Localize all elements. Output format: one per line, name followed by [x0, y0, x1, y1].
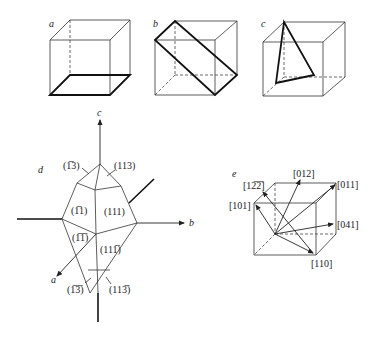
panel-d-label: d — [38, 164, 44, 175]
face-11-bar1: (111̅) — [100, 244, 121, 256]
panel-e-cube: e [12̅2̅] [012] [011] [101] [041] [110] — [229, 168, 359, 269]
panel-e-label: e — [232, 168, 237, 179]
direction-101: [101] — [229, 200, 251, 211]
axis-b-label: b — [189, 217, 194, 228]
panel-d-crystal: d c b a (1̅3) (113) (1̅1) (111) (1̅1̅) (… — [17, 107, 194, 322]
panel-b-label: b — [153, 18, 158, 29]
direction-012: [012] — [293, 168, 315, 179]
face-1-bar1-3: (1̅3) — [63, 160, 80, 172]
axis-a-label: a — [51, 274, 56, 285]
panel-a-label: a — [49, 18, 54, 29]
panel-a-cube: a — [49, 18, 130, 95]
face-1-bar1-bar1: (1̅1̅) — [72, 232, 88, 244]
face-111: (111) — [104, 206, 125, 218]
direction-1-bar2-bar2: [12̅2̅] — [243, 180, 265, 191]
crystallography-figure: a b c d c b a — [0, 0, 373, 337]
direction-110: [110] — [311, 258, 332, 269]
face-11-bar3: (113̅) — [109, 284, 130, 296]
face-1-bar1-1: (1̅1) — [71, 205, 87, 217]
panel-b-cube: b — [153, 18, 237, 95]
direction-011: [011] — [337, 179, 358, 190]
axis-c-label: c — [97, 107, 102, 118]
panel-c-label: c — [261, 18, 266, 29]
face-113: (113) — [114, 160, 135, 172]
direction-041: [041] — [337, 219, 359, 230]
face-1-bar1-bar3: (1̅3̅) — [67, 284, 84, 296]
panel-c-cube: c — [261, 18, 345, 96]
